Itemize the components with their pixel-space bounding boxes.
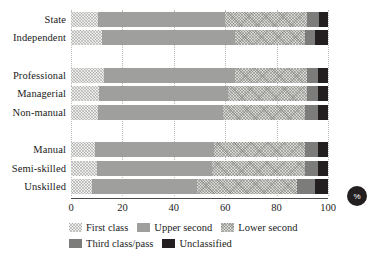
legend-swatch-third — [69, 239, 82, 248]
legend-item[interactable]: Third class/pass — [69, 237, 153, 250]
bar-segment-first — [71, 105, 98, 120]
stacked-bar — [71, 142, 328, 157]
x-tick-label: 100 — [320, 201, 336, 214]
bar-segment-first — [71, 161, 97, 176]
bar-segment-third — [307, 86, 317, 101]
category-label: Managerial — [0, 86, 66, 101]
bar-segment-lower — [214, 142, 305, 157]
x-axis-line — [71, 198, 328, 199]
bar-segment-third — [307, 12, 319, 27]
bar-segment-first — [71, 68, 104, 83]
stacked-bar — [71, 12, 328, 27]
category-label: Professional — [0, 68, 66, 83]
stacked-bar — [71, 179, 328, 194]
bar-segment-upper — [98, 12, 225, 27]
legend-swatch-upper — [137, 223, 150, 232]
x-tick-label: 0 — [68, 201, 73, 214]
category-label: State — [0, 12, 66, 27]
bar-segment-first — [71, 86, 99, 101]
chart-legend: First classUpper secondLower second Thir… — [58, 219, 358, 251]
category-label: Unskilled — [0, 179, 66, 194]
legend-label: Lower second — [238, 221, 297, 234]
bar-segment-first — [71, 179, 92, 194]
legend-label: Upper second — [154, 221, 212, 234]
bar-segment-lower — [235, 30, 304, 45]
x-tick-label: 80 — [271, 201, 282, 214]
stacked-bar — [71, 86, 328, 101]
percent-badge: % — [347, 186, 367, 206]
bar-segment-upper — [92, 179, 197, 194]
bar-segment-upper — [97, 161, 213, 176]
bar-segment-unclass — [319, 12, 328, 27]
x-tick-label: 20 — [117, 201, 128, 214]
bar-row — [71, 142, 328, 157]
bar-segment-third — [305, 142, 318, 157]
bar-row — [71, 179, 328, 194]
bar-segment-first — [71, 12, 98, 27]
bar-segment-first — [71, 30, 102, 45]
bar-segment-unclass — [318, 86, 328, 101]
bar-segment-lower — [235, 68, 307, 83]
stacked-bar — [71, 30, 328, 45]
bar-segment-upper — [95, 142, 213, 157]
stacked-bar — [71, 68, 328, 83]
gridline — [328, 10, 329, 196]
category-label: Manual — [0, 142, 66, 157]
bar-row — [71, 105, 328, 120]
bar-segment-lower — [228, 86, 308, 101]
category-label: Independent — [0, 30, 66, 45]
category-label: Non-manual — [0, 105, 66, 120]
x-tick-label: 60 — [220, 201, 231, 214]
bar-segment-lower — [225, 12, 307, 27]
bar-row — [71, 68, 328, 83]
bar-segment-upper — [104, 68, 235, 83]
bar-segment-unclass — [315, 30, 328, 45]
stacked-bar — [71, 105, 328, 120]
bar-segment-upper — [102, 30, 236, 45]
bar-segment-third — [297, 179, 315, 194]
x-tick-label: 40 — [169, 201, 180, 214]
stacked-bar — [71, 161, 328, 176]
bar-segment-lower — [212, 161, 305, 176]
legend-item[interactable]: Lower second — [221, 221, 297, 234]
legend-swatch-unclass — [162, 239, 175, 248]
category-label-column: StateIndependentProfessionalManagerialNo… — [0, 10, 66, 196]
bar-segment-unclass — [318, 142, 328, 157]
category-label: Semi-skilled — [0, 161, 66, 176]
legend-item[interactable]: Unclassified — [162, 237, 232, 250]
bar-segment-third — [307, 68, 317, 83]
legend-item[interactable]: Upper second — [137, 221, 212, 234]
bar-segment-third — [305, 161, 318, 176]
legend-swatch-first — [69, 223, 82, 232]
stacked-bar-chart: StateIndependentProfessionalManagerialNo… — [0, 0, 381, 261]
bar-segment-lower — [197, 179, 297, 194]
bar-segment-upper — [99, 86, 228, 101]
legend-row-1: First classUpper secondLower second — [58, 219, 358, 235]
bar-segment-unclass — [315, 179, 328, 194]
legend-label: Unclassified — [179, 237, 232, 250]
legend-label: Third class/pass — [86, 237, 153, 250]
bar-segment-upper — [98, 105, 223, 120]
bar-segment-unclass — [318, 161, 328, 176]
bar-segment-unclass — [318, 105, 328, 120]
plot-area — [71, 10, 328, 196]
legend-row-2: Third class/passUnclassified — [58, 235, 358, 251]
bar-segment-third — [305, 105, 318, 120]
legend-item[interactable]: First class — [69, 221, 128, 234]
bar-row — [71, 161, 328, 176]
bar-segment-first — [71, 142, 95, 157]
bar-segment-lower — [223, 105, 305, 120]
bar-row — [71, 30, 328, 45]
legend-swatch-lower — [221, 223, 234, 232]
legend-label: First class — [86, 221, 128, 234]
bar-row — [71, 12, 328, 27]
bar-segment-third — [305, 30, 315, 45]
bar-row — [71, 86, 328, 101]
bar-segment-unclass — [318, 68, 328, 83]
